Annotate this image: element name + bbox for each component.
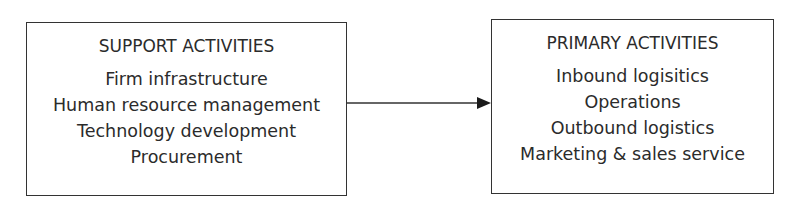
primary-activities-title: PRIMARY ACTIVITIES	[492, 32, 773, 54]
primary-activities-box: PRIMARY ACTIVITIES Inbound logisitics Op…	[491, 19, 774, 194]
arrowhead-icon	[477, 97, 491, 109]
primary-item-outbound-logistics: Outbound logistics	[492, 115, 773, 141]
primary-item-inbound-logistics: Inbound logisitics	[492, 63, 773, 89]
support-activities-box: SUPPORT ACTIVITIES Firm infrastructure H…	[26, 22, 347, 196]
primary-activities-list: Inbound logisitics Operations Outbound l…	[492, 63, 773, 167]
support-item-firm-infrastructure: Firm infrastructure	[27, 66, 346, 92]
support-to-primary-arrow	[346, 95, 492, 111]
support-activities-list: Firm infrastructure Human resource manag…	[27, 66, 346, 170]
primary-item-operations: Operations	[492, 89, 773, 115]
support-item-human-resource-management: Human resource management	[27, 92, 346, 118]
support-activities-title: SUPPORT ACTIVITIES	[27, 35, 346, 57]
support-item-procurement: Procurement	[27, 144, 346, 170]
primary-item-marketing-sales-service: Marketing & sales service	[492, 141, 773, 167]
support-item-technology-development: Technology development	[27, 118, 346, 144]
